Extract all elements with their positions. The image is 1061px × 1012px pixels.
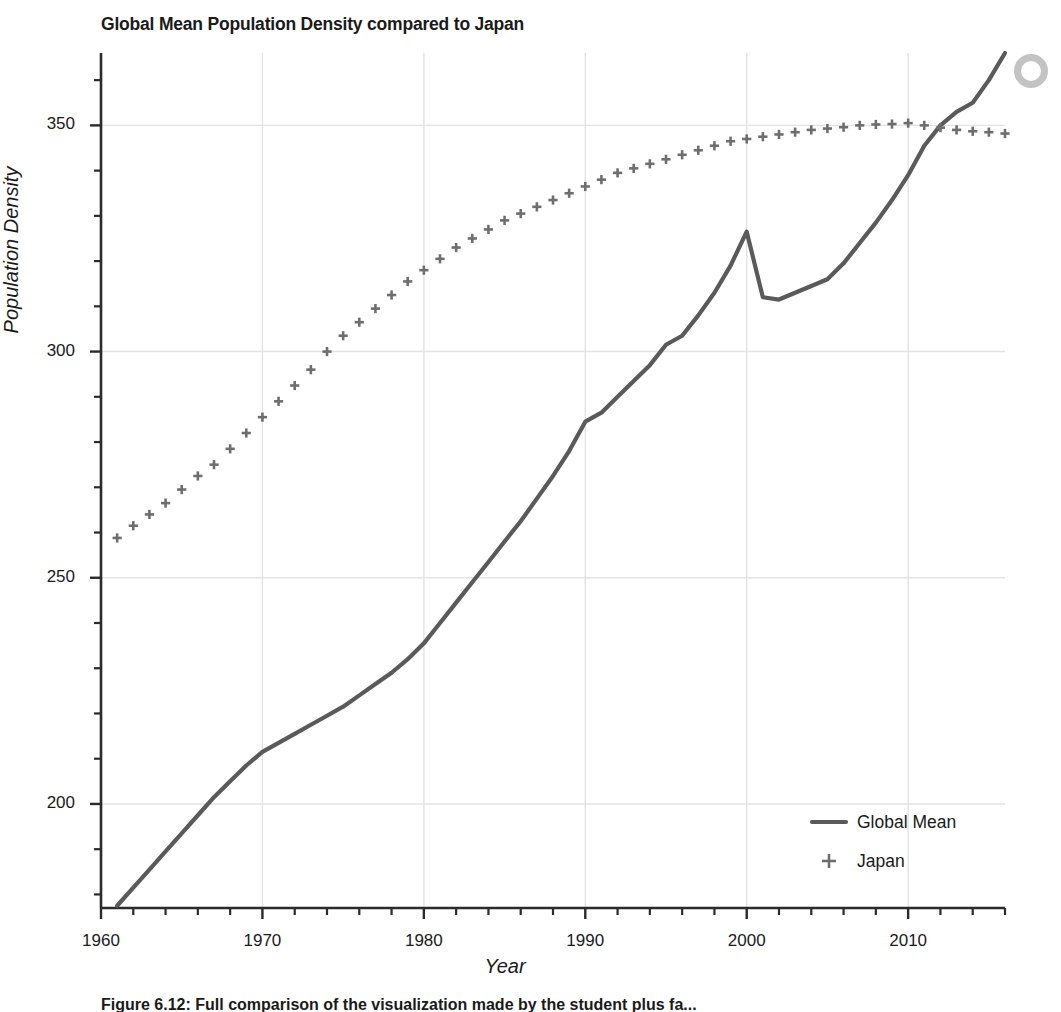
series-japan — [113, 119, 1010, 543]
axis-lines — [101, 53, 1005, 908]
scan-artifact-icon — [1014, 54, 1048, 88]
x-tick-label: 2010 — [868, 931, 948, 951]
legend-label-global-mean: Global Mean — [857, 812, 956, 833]
x-axis-title: Year — [0, 955, 1010, 978]
figure-caption: Figure 6.12: Full comparison of the visu… — [101, 994, 961, 1012]
gridlines — [101, 53, 1005, 908]
x-tick-label: 1960 — [61, 931, 141, 951]
figure-container: Global Mean Population Density compared … — [0, 0, 1061, 1012]
x-tick-label: 1970 — [222, 931, 302, 951]
y-tick-label: 350 — [15, 114, 75, 134]
x-tick-label: 2000 — [707, 931, 787, 951]
axis-ticks — [90, 80, 1005, 919]
x-tick-label: 1980 — [384, 931, 464, 951]
y-tick-label: 200 — [15, 793, 75, 813]
legend-markers — [812, 822, 846, 868]
y-tick-label: 250 — [15, 567, 75, 587]
y-tick-label: 300 — [15, 341, 75, 361]
legend-label-japan: Japan — [857, 851, 905, 872]
series-global-mean — [117, 53, 1005, 906]
x-tick-label: 1990 — [545, 931, 625, 951]
y-axis-title-text: Population Density — [0, 167, 23, 334]
